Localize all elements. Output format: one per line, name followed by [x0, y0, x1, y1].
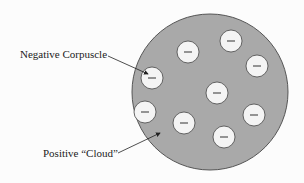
negative-corpuscle-label: Negative Corpuscle	[20, 48, 107, 60]
atom-model-diagram: Negative Corpuscle Positive “Cloud”	[0, 0, 304, 183]
positive-cloud-label: Positive “Cloud”	[43, 147, 118, 159]
